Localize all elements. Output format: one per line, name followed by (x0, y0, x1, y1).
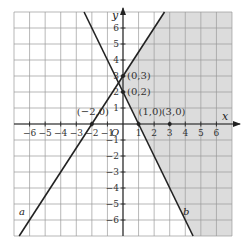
y-tick-label: 1 (113, 103, 119, 113)
point-label: (3,0) (162, 106, 186, 117)
y-tick-label: −6 (106, 215, 120, 225)
x-tick-label: 3 (167, 128, 173, 138)
line-b-label: b (183, 206, 189, 217)
y-tick-label: 4 (113, 55, 119, 65)
point-label: (0,2) (127, 86, 151, 97)
x-tick-label: 2 (151, 128, 157, 138)
y-tick-label: 5 (113, 39, 119, 49)
coordinate-graph: −6−5−4−3−2−1123456−6−5−4−3−2−1123456 (−2… (0, 0, 247, 241)
y-axis-arrow-icon (120, 7, 126, 15)
x-tick-label: −4 (54, 128, 68, 138)
y-axis-label: y (111, 9, 119, 22)
y-tick-label: −2 (106, 151, 119, 161)
point-marker (121, 74, 125, 78)
x-tick-label: 5 (198, 128, 204, 138)
point-marker (137, 122, 141, 126)
x-tick-label: −2 (85, 128, 98, 138)
point-label: (1,0) (139, 106, 163, 117)
point-label: (−2,0) (77, 106, 109, 117)
origin-label: O (111, 127, 119, 138)
point-marker (168, 122, 172, 126)
line-a-label: a (19, 206, 25, 217)
x-axis-label: x (222, 110, 229, 123)
y-tick-label: −4 (106, 183, 120, 193)
y-tick-label: −5 (106, 199, 120, 209)
point-marker (121, 90, 125, 94)
y-tick-label: 6 (113, 23, 119, 33)
x-tick-label: −5 (39, 128, 53, 138)
y-tick-label: −3 (106, 167, 120, 177)
point-label: (0,3) (127, 70, 151, 81)
x-tick-label: −6 (23, 128, 37, 138)
x-tick-label: −3 (70, 128, 84, 138)
x-axis-arrow-icon (233, 121, 241, 127)
x-tick-label: 6 (214, 128, 220, 138)
x-tick-label: 4 (182, 128, 188, 138)
point-marker (90, 122, 94, 126)
